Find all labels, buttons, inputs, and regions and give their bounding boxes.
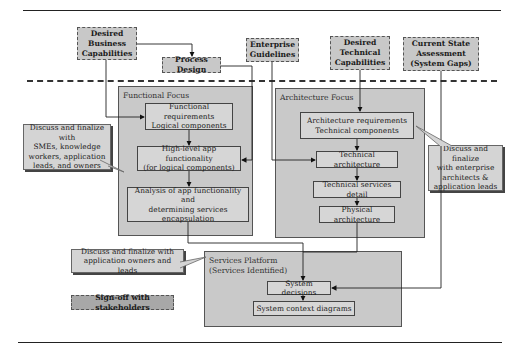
connector-lines	[0, 0, 522, 352]
